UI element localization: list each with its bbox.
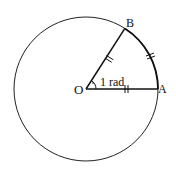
label-b: B	[126, 17, 134, 29]
angle-arc	[91, 81, 96, 89]
label-o: O	[74, 83, 83, 96]
diagram-canvas	[0, 0, 176, 179]
angle-dot	[92, 82, 94, 84]
radian-diagram: O A B 1 rad	[0, 0, 176, 179]
angle-label: 1 rad	[100, 76, 124, 88]
label-a: A	[158, 83, 167, 95]
arc-ab	[125, 28, 158, 89]
